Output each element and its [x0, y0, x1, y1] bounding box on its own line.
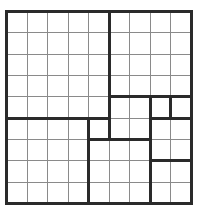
grid-cell[interactable]	[48, 12, 69, 33]
grid-cell[interactable]	[89, 161, 110, 183]
grid-cell[interactable]	[89, 140, 110, 161]
grid-cell[interactable]	[171, 97, 192, 119]
grid-cell[interactable]	[151, 97, 171, 119]
grid-cell[interactable]	[89, 12, 110, 33]
grid-cell[interactable]	[69, 97, 89, 119]
grid-cell[interactable]	[69, 76, 89, 97]
grid-cell[interactable]	[69, 183, 89, 204]
grid-cell[interactable]	[89, 97, 110, 119]
grid-cell[interactable]	[89, 33, 110, 55]
grid-cell[interactable]	[7, 97, 28, 119]
grid-cell[interactable]	[48, 76, 69, 97]
grid-cell[interactable]	[28, 183, 48, 204]
grid-cell[interactable]	[171, 140, 192, 161]
grid-cells[interactable]	[7, 12, 192, 204]
grid-cell[interactable]	[7, 183, 28, 204]
grid-cell[interactable]	[28, 33, 48, 55]
grid-cell[interactable]	[151, 140, 171, 161]
grid-cell[interactable]	[130, 183, 151, 204]
grid-cell[interactable]	[48, 33, 69, 55]
grid-cell[interactable]	[7, 140, 28, 161]
grid-cell[interactable]	[7, 76, 28, 97]
grid-cell[interactable]	[110, 55, 130, 76]
grid-cell[interactable]	[48, 183, 69, 204]
grid-cell[interactable]	[171, 76, 192, 97]
grid-cell[interactable]	[130, 33, 151, 55]
grid-cell[interactable]	[110, 119, 130, 140]
grid-cell[interactable]	[130, 55, 151, 76]
grid-cell[interactable]	[28, 12, 48, 33]
grid-cell[interactable]	[171, 12, 192, 33]
grid-cell[interactable]	[110, 33, 130, 55]
grid-cell[interactable]	[69, 161, 89, 183]
grid-cell[interactable]	[7, 161, 28, 183]
grid-cell[interactable]	[130, 97, 151, 119]
grid-cell[interactable]	[69, 119, 89, 140]
grid-cell[interactable]	[7, 12, 28, 33]
grid-cell[interactable]	[130, 12, 151, 33]
grid-cell[interactable]	[151, 55, 171, 76]
grid-cell[interactable]	[89, 183, 110, 204]
grid-cell[interactable]	[69, 55, 89, 76]
grid-cell[interactable]	[171, 55, 192, 76]
grid-cell[interactable]	[89, 119, 110, 140]
grid-cell[interactable]	[48, 119, 69, 140]
grid-cell[interactable]	[151, 119, 171, 140]
grid-cell[interactable]	[48, 140, 69, 161]
grid-cell[interactable]	[48, 55, 69, 76]
grid-cell[interactable]	[28, 76, 48, 97]
grid-cell[interactable]	[130, 76, 151, 97]
puzzle-grid[interactable]	[0, 0, 197, 206]
grid-cell[interactable]	[130, 140, 151, 161]
grid-cell[interactable]	[110, 183, 130, 204]
grid-cell[interactable]	[89, 55, 110, 76]
grid-cell[interactable]	[110, 161, 130, 183]
grid-cell[interactable]	[171, 183, 192, 204]
grid-cell[interactable]	[28, 55, 48, 76]
grid-cell[interactable]	[7, 55, 28, 76]
grid-cell[interactable]	[110, 76, 130, 97]
grid-cell[interactable]	[151, 183, 171, 204]
grid-cell[interactable]	[7, 119, 28, 140]
grid-cell[interactable]	[171, 161, 192, 183]
grid-cell[interactable]	[151, 76, 171, 97]
grid-cell[interactable]	[69, 12, 89, 33]
grid-cell[interactable]	[151, 33, 171, 55]
grid-cell[interactable]	[171, 33, 192, 55]
grid-cell[interactable]	[130, 119, 151, 140]
grid-cell[interactable]	[28, 97, 48, 119]
grid-cell[interactable]	[151, 12, 171, 33]
grid-cell[interactable]	[69, 140, 89, 161]
grid-cell[interactable]	[171, 119, 192, 140]
grid-cell[interactable]	[28, 119, 48, 140]
grid-cell[interactable]	[151, 161, 171, 183]
grid-cell[interactable]	[110, 140, 130, 161]
grid-cell[interactable]	[28, 161, 48, 183]
grid-cell[interactable]	[48, 97, 69, 119]
grid-cell[interactable]	[7, 33, 28, 55]
grid-cell[interactable]	[48, 161, 69, 183]
grid-cell[interactable]	[110, 12, 130, 33]
grid-cell[interactable]	[28, 140, 48, 161]
grid-cell[interactable]	[110, 97, 130, 119]
grid-cell[interactable]	[89, 76, 110, 97]
grid-cell[interactable]	[130, 161, 151, 183]
grid-cell[interactable]	[69, 33, 89, 55]
